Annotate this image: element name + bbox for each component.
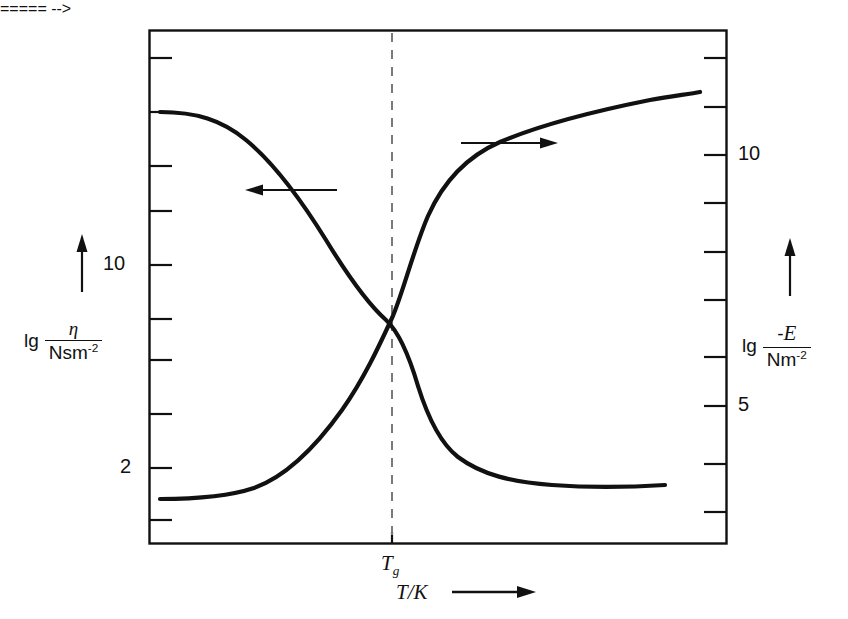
right-axis-label-numerator: -E bbox=[773, 322, 800, 347]
x-axis-label-text: T/K bbox=[396, 580, 428, 605]
left-axis-label-fraction: η Nsm-2 bbox=[45, 318, 103, 364]
left-axis-label-denominator-text: Nsm bbox=[49, 342, 88, 363]
right-axis-label-lg: lg bbox=[742, 336, 757, 355]
left-axis-up-arrow bbox=[77, 234, 88, 292]
left-axis-label-numerator: η bbox=[65, 318, 82, 340]
x-axis-tg-symbol: T bbox=[381, 551, 393, 575]
left-axis-ticks bbox=[150, 58, 173, 520]
right-axis-label-fraction: -E Nm-2 bbox=[763, 322, 811, 370]
right-axis-tick-label-10: 10 bbox=[738, 142, 760, 165]
right-axis-label-denominator-text: Nm bbox=[767, 349, 797, 370]
x-axis-right-arrow bbox=[452, 586, 536, 598]
right-axis-tick-label-5: 5 bbox=[738, 393, 749, 416]
right-axis-label-numerator-symbol: E bbox=[784, 321, 797, 345]
right-axis-ticks bbox=[704, 58, 727, 512]
left-axis-tick-label-2: 2 bbox=[120, 455, 131, 478]
modulus-curve bbox=[160, 92, 700, 499]
x-axis-tg-subscript: g bbox=[393, 563, 400, 578]
right-axis-label-denominator: Nm-2 bbox=[763, 347, 811, 370]
x-axis-tg-label: Tg bbox=[381, 551, 399, 576]
left-axis-label-denominator-exponent: -2 bbox=[88, 341, 98, 354]
left-axis-label-lg: lg bbox=[24, 331, 39, 350]
left-axis-label: lg η Nsm-2 bbox=[24, 318, 102, 364]
right-axis-label-denominator-exponent: -2 bbox=[796, 347, 806, 360]
left-axis-tick-label-10: 10 bbox=[103, 252, 125, 275]
chart-canvas bbox=[0, 0, 848, 619]
right-axis-label: lg -E Nm-2 bbox=[742, 322, 811, 370]
plot-frame bbox=[150, 31, 727, 544]
left-axis-label-denominator: Nsm-2 bbox=[45, 340, 103, 363]
right-axis-up-arrow bbox=[785, 238, 796, 296]
x-axis-label: T/K bbox=[396, 580, 428, 605]
viscosity-curve bbox=[160, 112, 665, 487]
figure-container: 10 2 10 5 lg η Nsm-2 lg -E Nm-2 Tg =====… bbox=[0, 0, 848, 619]
